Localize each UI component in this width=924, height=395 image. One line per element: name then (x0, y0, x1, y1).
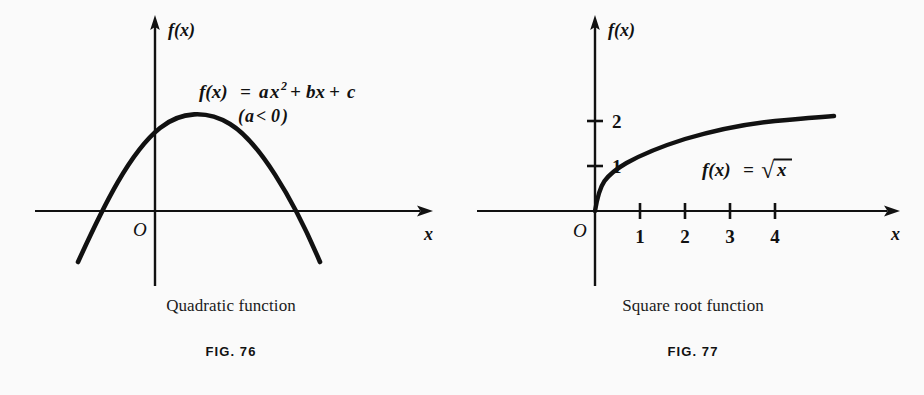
figure-caption-title: Quadratic function (0, 296, 462, 316)
equation-term2: bx (306, 81, 326, 102)
figure-caption-title: Square root function (462, 296, 924, 316)
quadratic-function-plot: f(x) x O f(x) = a x 2 + bx + c ( a < 0 (0, 0, 462, 395)
figure-panel-square-root: 1 2 3 4 1 2 f(x) x O f(x) (462, 0, 924, 395)
y-axis-group (590, 15, 600, 286)
origin-label: O (573, 220, 587, 241)
radical-sign-icon: √ (761, 157, 775, 183)
equation-radicand: x (776, 159, 787, 180)
figure-panel-quadratic: f(x) x O f(x) = a x 2 + bx + c ( a < 0 (0, 0, 462, 395)
condition-variable: a (245, 106, 254, 126)
equation-equals: = (240, 81, 251, 102)
equation-annotation: f(x) = a x 2 + bx + c (199, 79, 356, 103)
x-axis-group (477, 206, 900, 217)
equation-term1-exponent: 2 (280, 79, 287, 93)
origin-label: O (133, 219, 147, 240)
x-axis-group (35, 206, 433, 217)
y-tick-label-2: 2 (612, 111, 622, 132)
condition-relation: < (256, 106, 266, 126)
x-axis-label: x (423, 224, 433, 244)
y-axis-group (150, 15, 160, 286)
equation-lhs: f(x) (702, 159, 730, 181)
condition-annotation: ( a < 0 ) (238, 106, 288, 127)
x-tick-labels: 1 2 3 4 (635, 226, 780, 247)
equation-term1-coef: a (259, 81, 269, 102)
equation-term3: c (347, 81, 356, 102)
y-axis-label: f(x) (608, 20, 635, 41)
x-tick-label-3: 3 (725, 226, 735, 247)
equation-lhs: f(x) (199, 81, 227, 103)
x-tick-label-4: 4 (770, 226, 780, 247)
equation-equals: = (743, 159, 754, 180)
condition-value: 0 (271, 106, 280, 126)
figure-caption-number: FIG. 77 (462, 344, 924, 359)
equation-term1-var: x (269, 81, 280, 102)
figure-caption-number: FIG. 76 (0, 344, 462, 359)
condition-close-paren: ) (280, 106, 288, 127)
x-tick-label-1: 1 (635, 226, 645, 247)
y-axis-label: f(x) (168, 20, 195, 41)
equation-plus-1: + (290, 81, 301, 102)
x-tick-label-2: 2 (680, 226, 690, 247)
x-axis-label: x (890, 224, 900, 244)
square-root-function-plot: 1 2 3 4 1 2 f(x) x O f(x) (462, 0, 924, 395)
figure-sheet: f(x) x O f(x) = a x 2 + bx + c ( a < 0 (0, 0, 924, 395)
equation-annotation: f(x) = √ x (702, 157, 792, 183)
parabola-curve (78, 114, 320, 262)
equation-plus-2: + (329, 81, 340, 102)
